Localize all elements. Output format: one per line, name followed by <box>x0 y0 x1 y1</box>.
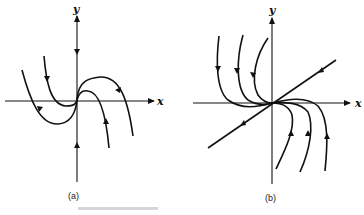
y-axis-label-a: y <box>72 3 81 16</box>
x-axis-label-a: x <box>156 95 164 108</box>
arrow-icon <box>44 76 50 82</box>
trajectory-curve <box>254 38 272 103</box>
partial-caption-line <box>78 207 158 210</box>
arrow-icon <box>74 49 80 55</box>
x-axis-label-b: x <box>354 97 362 110</box>
arrow-icon <box>74 142 80 148</box>
caption-a: (a) <box>68 191 79 201</box>
arrow-icon <box>103 118 109 124</box>
arrow-icon <box>115 87 121 93</box>
arrow-icon <box>288 130 294 136</box>
panel-a: x y (a) <box>5 3 164 201</box>
arrow-icon <box>215 66 221 72</box>
caption-b: (b) <box>265 193 276 203</box>
arrow-icon <box>324 133 330 139</box>
y-axis-label-b: y <box>268 4 277 17</box>
figure-canvas: x y (a) x y <box>0 0 364 215</box>
panel-b: x y (b) <box>193 4 362 203</box>
arrow-icon <box>240 120 246 126</box>
